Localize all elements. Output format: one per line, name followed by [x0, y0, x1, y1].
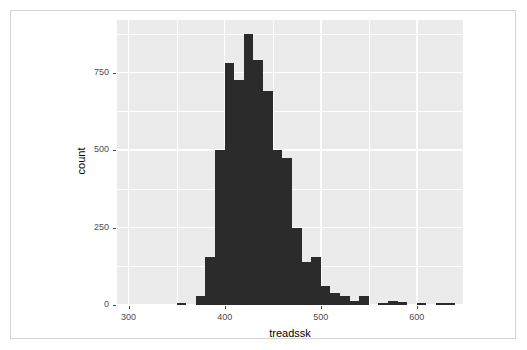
y-tick-mark — [113, 228, 116, 229]
gridline-major-horizontal — [117, 149, 463, 151]
y-tick-label: 0 — [75, 299, 109, 309]
x-tick-mark — [225, 306, 226, 309]
y-tick-label: 750 — [75, 67, 109, 77]
y-axis-title: count — [75, 101, 87, 221]
histogram-bar — [282, 158, 292, 305]
x-tick-label: 600 — [397, 312, 437, 322]
histogram-bar — [417, 303, 427, 305]
histogram-bar — [446, 303, 456, 305]
histogram-bar — [388, 301, 398, 305]
histogram-bar — [378, 303, 388, 305]
x-tick-label: 400 — [205, 312, 245, 322]
gridline-minor-vertical — [369, 20, 370, 305]
gridline-major-horizontal — [117, 72, 463, 74]
y-tick-label: 250 — [75, 222, 109, 232]
histogram-bar — [196, 296, 206, 305]
x-tick-mark — [417, 306, 418, 309]
gridline-major-vertical — [128, 20, 130, 305]
histogram-bar — [321, 286, 331, 305]
histogram-bar — [273, 150, 283, 305]
histogram-bar — [292, 228, 302, 305]
histogram-bar — [302, 262, 312, 305]
y-tick-mark — [113, 150, 116, 151]
histogram-bar — [225, 63, 235, 305]
x-tick-mark — [129, 306, 130, 309]
histogram-bar — [398, 302, 408, 305]
x-tick-label: 500 — [301, 312, 341, 322]
histogram-bar — [350, 301, 360, 305]
histogram-bar — [177, 303, 187, 305]
figure-border: count treadssk 0250500750 300400500600 — [10, 10, 516, 339]
histogram-bar — [253, 60, 263, 305]
histogram-bar — [311, 257, 321, 305]
histogram-bar — [205, 257, 215, 305]
histogram-bar — [330, 293, 340, 305]
y-tick-mark — [113, 305, 116, 306]
gridline-minor-vertical — [177, 20, 178, 305]
histogram-bar — [436, 303, 446, 305]
figure-canvas: count treadssk 0250500750 300400500600 — [0, 0, 527, 350]
x-tick-mark — [321, 306, 322, 309]
histogram-bar — [359, 296, 369, 305]
y-tick-mark — [113, 73, 116, 74]
histogram-bar — [244, 34, 254, 305]
x-tick-label: 300 — [109, 312, 149, 322]
plot-panel — [117, 20, 463, 305]
histogram-bar — [340, 296, 350, 305]
y-tick-label: 500 — [75, 144, 109, 154]
gridline-minor-horizontal — [117, 34, 463, 35]
gridline-major-vertical — [416, 20, 418, 305]
histogram-bar — [215, 150, 225, 305]
histogram-bar — [263, 91, 273, 305]
histogram-bar — [234, 80, 244, 305]
gridline-minor-horizontal — [117, 111, 463, 112]
x-axis-title: treadssk — [117, 327, 463, 339]
